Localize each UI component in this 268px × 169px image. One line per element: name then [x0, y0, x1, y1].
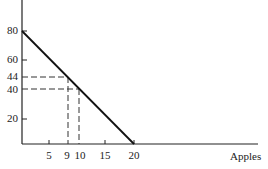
x-tick-label-9: 9 — [64, 150, 70, 161]
dashed-guides — [22, 77, 79, 144]
y-tick-label-60: 60 — [0, 54, 18, 65]
y-tick-label-80: 80 — [0, 25, 18, 36]
y-tick-label-40: 40 — [0, 84, 18, 95]
x-tick-label-20: 20 — [129, 150, 140, 161]
chart-canvas — [0, 0, 268, 169]
budget-line — [22, 31, 134, 144]
y-tick-label-20: 20 — [0, 113, 18, 124]
y-tick-label-44: 44 — [0, 71, 18, 82]
x-axis-title: Apples — [230, 151, 261, 162]
x-tick-label-10: 10 — [75, 150, 86, 161]
y-ticks — [22, 31, 27, 119]
x-tick-label-5: 5 — [46, 150, 52, 161]
x-tick-label-15: 15 — [100, 150, 111, 161]
